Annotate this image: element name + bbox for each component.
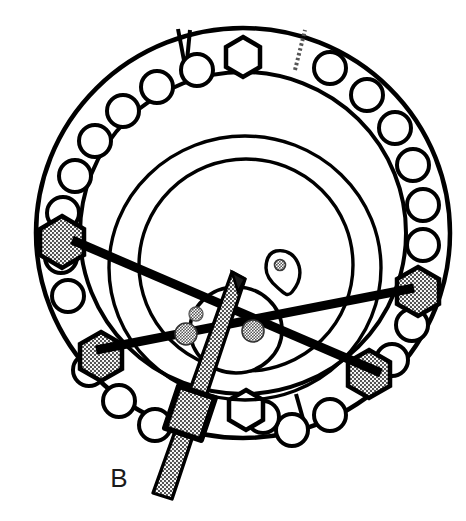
ring-hole xyxy=(397,149,429,181)
ring-hole xyxy=(407,189,439,221)
node-dot-small-upper xyxy=(189,307,203,321)
ring-hole xyxy=(407,229,439,261)
ring-hole xyxy=(351,79,383,111)
hexagon-lower-left-anchor xyxy=(80,332,122,381)
ring-hole xyxy=(59,160,91,192)
ring-hole xyxy=(141,71,173,103)
hexagon-top-marker xyxy=(226,37,260,77)
hexagon-bottom-marker xyxy=(229,390,263,430)
node-dot-left xyxy=(175,323,197,345)
node-dot-right xyxy=(242,320,264,342)
ring-hole xyxy=(103,385,135,417)
ring-hole xyxy=(314,399,346,431)
anatomical-diagram: B xyxy=(0,0,466,521)
lesion-core-dot xyxy=(275,260,286,271)
ring-hole xyxy=(379,112,411,144)
ring-hole xyxy=(52,280,84,312)
ring-hole xyxy=(314,52,346,84)
ring-hole xyxy=(107,95,139,127)
figure-label: B xyxy=(110,463,127,493)
figure-container: B xyxy=(0,0,466,521)
ring-hole xyxy=(181,54,213,86)
ring-hole xyxy=(79,125,111,157)
